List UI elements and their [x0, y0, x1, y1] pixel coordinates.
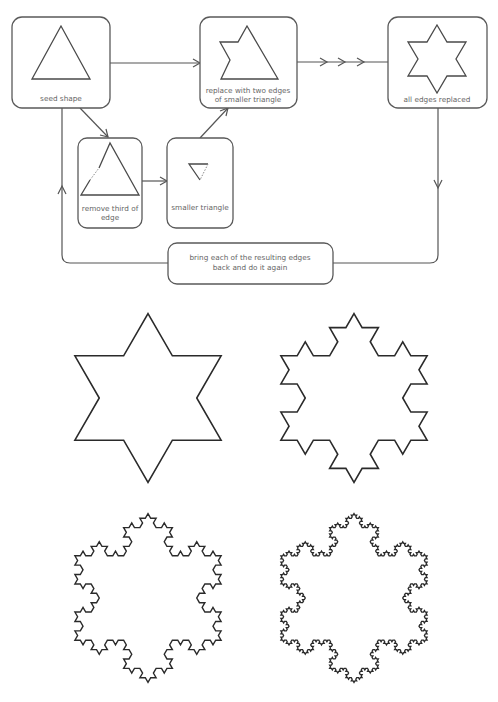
node-smaller-triangle: smaller triangle [167, 138, 233, 228]
node-label-line-2: of smaller triangle [215, 95, 282, 104]
node-label-line-1: bring each of the resulting edges [189, 253, 310, 262]
node-all-edges-replaced: all edges replaced [388, 17, 487, 108]
node-bring-back: bring each of the resulting edges back a… [168, 243, 333, 284]
node-label-line-1: remove third of [82, 204, 139, 213]
node-box [167, 138, 233, 228]
edge-all-edges-to-bring-back [333, 108, 438, 263]
node-seed-shape: seed shape [12, 17, 110, 108]
koch-snowflake-iteration-2 [281, 314, 427, 483]
koch-snowflake-iteration-4 [281, 514, 427, 683]
koch-snowflake-iteration-1 [75, 314, 221, 483]
node-label: seed shape [40, 94, 82, 103]
node-label: all edges replaced [404, 95, 471, 104]
node-label-line-2: back and do it again [213, 263, 288, 272]
node-remove-third: remove third of edge [78, 138, 142, 228]
node-label: smaller triangle [171, 203, 229, 212]
fractal-gallery [75, 314, 427, 683]
koch-snowflake-iteration-3 [75, 514, 221, 683]
koch-process-diagram: seed shape replace with two edges of sma… [0, 0, 498, 702]
node-replace-edges: replace with two edges of smaller triang… [200, 17, 297, 108]
edge-smaller-to-replace [200, 108, 228, 138]
node-label-line-1: replace with two edges [206, 86, 291, 95]
node-label-line-2: edge [101, 213, 120, 222]
edge-seed-to-remove [80, 108, 108, 137]
